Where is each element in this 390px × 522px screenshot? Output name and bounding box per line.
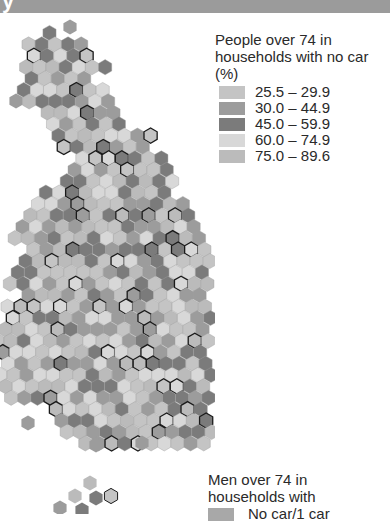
legend-label: 25.5 – 29.9: [255, 84, 330, 100]
map-hex: [144, 128, 157, 143]
legend-men-cars: Men over 74 in households with No car/1 …: [208, 471, 348, 522]
map-hex: [57, 139, 70, 154]
legend-item: 25.5 – 29.9: [215, 84, 390, 100]
legend-swatch: [219, 150, 245, 163]
legend-item: 60.0 – 74.9: [215, 132, 390, 148]
map-hex: [99, 60, 112, 75]
legend-swatch: [219, 86, 245, 99]
header-band: y: [0, 0, 390, 13]
map-hex-island: [63, 19, 76, 34]
legend-item: 30.0 – 44.9: [215, 100, 390, 116]
inset-map-hex: [53, 500, 66, 514]
header-title: y: [2, 0, 15, 13]
inset-map-hex: [89, 490, 102, 505]
legend2-swatch: [208, 508, 234, 521]
inset-map-hex: [83, 475, 96, 490]
legend-label: 30.0 – 44.9: [255, 100, 330, 116]
inset-map-hex: [75, 502, 88, 514]
map-hex-island: [21, 415, 34, 430]
legend-label: 75.0 – 89.6: [255, 148, 330, 164]
legend2-item: No car/1 car: [208, 506, 348, 522]
map-hex: [3, 276, 16, 291]
legend-item: 45.0 – 59.9: [215, 116, 390, 132]
legend-swatch: [219, 118, 245, 131]
map-hex: [8, 231, 21, 246]
inset-map-hex: [68, 488, 81, 503]
legend2-title: Men over 74 in households with: [208, 471, 348, 505]
inset-map-hex: [104, 488, 117, 503]
legend-label: 45.0 – 59.9: [255, 116, 330, 132]
hex-cartogram-map: [0, 13, 215, 514]
legend-label: 60.0 – 74.9: [255, 132, 330, 148]
legend-no-car: People over 74 in households with no car…: [215, 31, 390, 164]
legend2-label: No car/1 car: [248, 506, 330, 522]
legend-item: 75.0 – 89.6: [215, 148, 390, 164]
map-hex: [105, 436, 118, 451]
legend-title: People over 74 in households with no car…: [215, 31, 390, 82]
legend-swatch: [219, 134, 245, 147]
legend-swatch: [219, 102, 245, 115]
